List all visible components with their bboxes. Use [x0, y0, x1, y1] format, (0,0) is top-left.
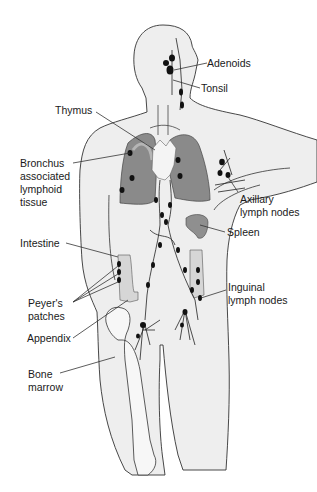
axillary-node [219, 159, 225, 165]
label-appendix: Appendix [27, 332, 71, 345]
adenoid-node [169, 55, 175, 62]
label-axillary-lymph-nodes: Axillary lymph nodes [240, 193, 300, 219]
label-intestine: Intestine [20, 237, 60, 250]
label-bronchus-associated-lymphoid-tissue: Bronchus associated lymphoid tissue [20, 157, 70, 209]
label-spleen: Spleen [227, 226, 260, 239]
label-tonsil: Tonsil [201, 82, 228, 95]
lymphatic-diagram: Adenoids Tonsil Thymus Bronchus associat… [0, 0, 317, 492]
label-peyers-patches: Peyer's patches [28, 297, 65, 323]
tonsil-node [167, 66, 174, 75]
label-adenoids: Adenoids [207, 57, 251, 70]
label-thymus: Thymus [55, 104, 92, 117]
label-bone-marrow: Bone marrow [28, 368, 63, 394]
label-inguinal-lymph-nodes: Inguinal lymph nodes [228, 281, 288, 307]
